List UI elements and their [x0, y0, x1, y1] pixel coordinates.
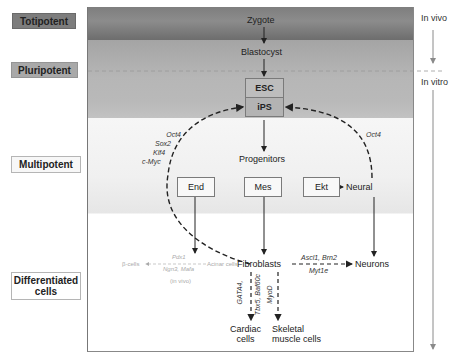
factor-gata4: GATA4, [235, 281, 244, 305]
factor-ngn3-mafa: Ngn3, Mafa [163, 265, 194, 273]
esc-box: ESC [245, 78, 284, 98]
in-vitro-label: In vitro [421, 77, 448, 87]
fibroblasts-node: Fibroblasts [237, 259, 281, 269]
factor-tbx5-baf60c: Tbx5, Baf60c [253, 274, 262, 315]
progenitors-node: Progenitors [239, 154, 285, 164]
acinar-cells-node: Acinar cells [207, 260, 238, 268]
factor-c-myc: c-Myc [142, 157, 161, 166]
in-vivo-label: In vivo [421, 13, 447, 23]
factor-myod: MyoD [265, 285, 274, 303]
neural-to-ips-curve [286, 107, 372, 178]
factor-ascl1-brn2: Ascl1, Brn2 [301, 253, 337, 262]
end-box: End [177, 177, 215, 197]
mes-box: Mes [244, 177, 282, 197]
cardiac-cells-node: Cardiac cells [230, 324, 261, 344]
factor-pdx1: Pdx1 [172, 253, 186, 261]
ips-box: iPS [245, 97, 284, 117]
ekt-box: Ekt [303, 177, 340, 197]
skeletal-muscle-node: Skeletal muscle cells [272, 324, 321, 344]
factor-klf4: Klf4 [153, 148, 165, 157]
zygote-node: Zygote [247, 15, 275, 25]
factor-oct4-neural: Oct4 [366, 130, 381, 139]
factor-myt1e: Myt1e [309, 266, 328, 275]
factor-oct4: Oct4 [165, 130, 181, 139]
neural-node: Neural [346, 182, 373, 192]
in-vivo-note: (in vivo) [170, 277, 191, 285]
beta-cells-node: β-cells [122, 260, 139, 268]
blastocyst-node: Blastocyst [241, 47, 282, 57]
neurons-node: Neurons [355, 259, 389, 269]
factor-sox2: Sox2 [155, 139, 171, 148]
arrows-overlay [0, 0, 457, 359]
